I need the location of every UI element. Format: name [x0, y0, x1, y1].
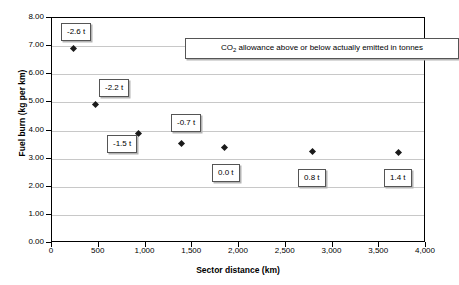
x-tick-label: 3,000: [312, 247, 352, 255]
gridline: [52, 159, 424, 160]
data-point-marker: [395, 149, 402, 156]
legend-text-subscript: 2: [233, 47, 236, 53]
y-tick-label: 3.00: [10, 154, 44, 162]
legend-text-suffix: allowance above or below actually emitte…: [236, 43, 423, 52]
y-tick-label: 1.00: [10, 210, 44, 218]
data-point-marker: [92, 101, 99, 108]
gridline: [52, 102, 424, 103]
x-tick-mark: [332, 242, 333, 247]
x-axis-title: Sector distance (km): [51, 265, 425, 275]
x-tick-mark: [285, 242, 286, 247]
legend-caption-box: CO2 allowance above or below actually em…: [185, 38, 459, 59]
annotation-label: -2.6 t: [61, 23, 91, 41]
y-tick-label: 7.00: [10, 41, 44, 49]
x-tick-label: 1,000: [125, 247, 165, 255]
x-tick-mark: [51, 242, 52, 247]
data-point-marker: [309, 147, 316, 154]
x-tick-label: 4,000: [405, 247, 445, 255]
annotation-label: 1.4 t: [384, 169, 412, 187]
annotation-label: 0.8 t: [298, 169, 326, 187]
x-tick-mark: [98, 242, 99, 247]
y-tick-label: 2.00: [10, 182, 44, 190]
y-tick-label: 0.00: [10, 238, 44, 246]
x-tick-label: 1,500: [171, 247, 211, 255]
annotation-label: -0.7 t: [171, 114, 201, 132]
plot-area: CO2 allowance above or below actually em…: [51, 17, 425, 242]
data-point-marker: [178, 140, 185, 147]
x-tick-label: 2,500: [265, 247, 305, 255]
gridline: [52, 215, 424, 216]
legend-text-prefix: CO: [221, 43, 233, 52]
annotation-label: -1.5 t: [107, 135, 137, 153]
x-tick-mark: [238, 242, 239, 247]
x-tick-label: 3,500: [358, 247, 398, 255]
annotation-label: -2.2 t: [99, 79, 129, 97]
gridline: [52, 187, 424, 188]
annotation-label: 0.0 t: [212, 164, 240, 182]
y-tick-label: 6.00: [10, 69, 44, 77]
y-tick-label: 8.00: [10, 13, 44, 21]
gridline: [52, 131, 424, 132]
y-tick-label: 4.00: [10, 126, 44, 134]
data-point-marker: [221, 144, 228, 151]
gridline: [52, 74, 424, 75]
x-tick-label: 2,000: [218, 247, 258, 255]
x-tick-mark: [191, 242, 192, 247]
x-tick-label: 500: [78, 247, 118, 255]
x-tick-mark: [425, 242, 426, 247]
y-axis-title: Fuel burn (kg per km): [17, 43, 27, 183]
x-tick-mark: [145, 242, 146, 247]
y-tick-label: 5.00: [10, 97, 44, 105]
x-tick-mark: [378, 242, 379, 247]
x-tick-label: 0: [31, 247, 71, 255]
